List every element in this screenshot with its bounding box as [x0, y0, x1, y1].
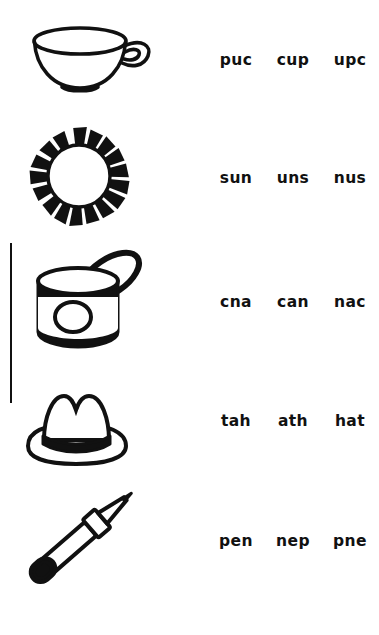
word-option[interactable]: ath — [270, 412, 316, 430]
word-option[interactable]: uns — [270, 169, 316, 187]
word-option[interactable]: puc — [213, 51, 259, 69]
options-cell-pen: pen nep pne — [200, 476, 379, 606]
worksheet-row-can: cna can nac — [0, 242, 379, 362]
tin-can-icon — [20, 244, 160, 356]
word-option[interactable]: nac — [327, 293, 373, 311]
word-option[interactable]: hat — [327, 412, 373, 430]
word-option[interactable]: pne — [327, 532, 373, 550]
word-option[interactable]: cup — [270, 51, 316, 69]
worksheet-row-pen: pen nep pne — [0, 476, 379, 606]
options-cell-can: cna can nac — [200, 242, 379, 362]
word-option[interactable]: cna — [213, 293, 259, 311]
worksheet-page: puc cup upc — [0, 0, 379, 635]
picture-cell-pen — [0, 476, 200, 606]
picture-cell-sun — [0, 114, 200, 242]
worksheet-row-hat: tah ath hat — [0, 366, 379, 476]
fedora-hat-icon — [14, 374, 164, 474]
options-cell-hat: tah ath hat — [200, 366, 379, 476]
word-option[interactable]: sun — [213, 169, 259, 187]
picture-cell-can — [0, 242, 200, 362]
sun-icon — [16, 114, 146, 240]
word-option[interactable]: can — [270, 293, 316, 311]
worksheet-row-sun: sun uns nus — [0, 114, 379, 242]
worksheet-row-cup: puc cup upc — [0, 6, 379, 114]
picture-cell-hat — [0, 366, 200, 476]
word-option[interactable]: nep — [270, 532, 316, 550]
options-cell-cup: puc cup upc — [200, 6, 379, 114]
options-cell-sun: sun uns nus — [200, 114, 379, 242]
fountain-pen-icon — [8, 476, 153, 601]
teacup-icon — [18, 8, 168, 108]
word-option[interactable]: nus — [327, 169, 373, 187]
word-option[interactable]: upc — [327, 51, 373, 69]
word-option[interactable]: tah — [213, 412, 259, 430]
word-option[interactable]: pen — [213, 532, 259, 550]
picture-cell-cup — [0, 6, 200, 114]
